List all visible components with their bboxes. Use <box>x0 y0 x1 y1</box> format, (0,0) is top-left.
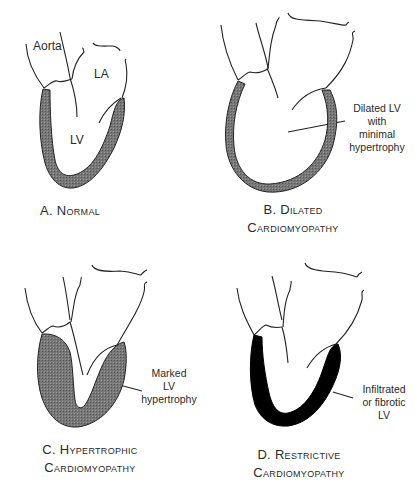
caption-d-line2: Cardiomyopathy <box>234 464 364 482</box>
annotation-c-line2: LV <box>137 380 201 393</box>
annotation-b: Dilated LV with minimal hypertrophy <box>340 102 414 154</box>
annotation-d-line3: LV <box>351 409 417 422</box>
label-aorta: Aorta <box>33 40 62 53</box>
caption-d: D. Restrictive Cardiomyopathy <box>234 446 364 482</box>
panel-d-lv-wall <box>250 335 340 426</box>
panel-c-lv-wall <box>38 334 127 427</box>
annotation-b-line2: with <box>340 115 414 128</box>
caption-c: C. Hypertrophic Cardiomyopathy <box>20 441 160 477</box>
annotation-c-line3: hypertrophy <box>137 393 201 406</box>
panel-b-lv-wall <box>226 81 337 192</box>
caption-a: A. Normal <box>40 202 140 220</box>
annotation-c: Marked LV hypertrophy <box>137 367 201 406</box>
caption-c-line2: Cardiomyopathy <box>20 459 160 477</box>
caption-d-line1: D. Restrictive <box>234 446 364 464</box>
annotation-c-line1: Marked <box>137 367 201 380</box>
caption-c-line1: C. Hypertrophic <box>20 441 160 459</box>
annotation-b-line1: Dilated LV <box>340 102 414 115</box>
label-lv: LV <box>70 134 84 147</box>
annotation-d: Infiltrated or fibrotic LV <box>351 383 417 422</box>
annotation-d-line1: Infiltrated <box>351 383 417 396</box>
annotation-d-line2: or fibrotic <box>351 396 417 409</box>
caption-a-line1: A. Normal <box>40 203 100 218</box>
cardiomyopathy-figure: Aorta LA LV A. Normal Dilated LV with mi… <box>0 0 417 492</box>
annotation-b-line3: minimal <box>340 128 414 141</box>
label-la: LA <box>94 68 109 81</box>
caption-b-line1: B. Dilated <box>228 201 358 219</box>
caption-b-line2: Cardiomyopathy <box>228 219 358 237</box>
annotation-b-line4: hypertrophy <box>340 141 414 154</box>
caption-b: B. Dilated Cardiomyopathy <box>228 201 358 237</box>
